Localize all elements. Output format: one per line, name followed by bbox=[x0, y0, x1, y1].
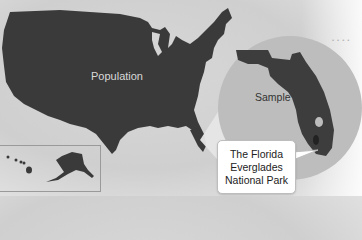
alaska-hawaii-inset bbox=[0, 145, 101, 192]
population-label: Population bbox=[91, 70, 143, 82]
everglades-marker bbox=[313, 135, 319, 145]
decorative-dots: •••• bbox=[332, 37, 352, 43]
callout-line-3: National Park bbox=[225, 174, 288, 187]
sample-label: Sample bbox=[255, 91, 291, 103]
callout-line-2: Everglades bbox=[230, 161, 283, 174]
callout-line-1: The Florida bbox=[230, 148, 283, 161]
everglades-callout: The Florida Everglades National Park bbox=[217, 140, 296, 194]
lake-okeechobee bbox=[315, 117, 323, 127]
